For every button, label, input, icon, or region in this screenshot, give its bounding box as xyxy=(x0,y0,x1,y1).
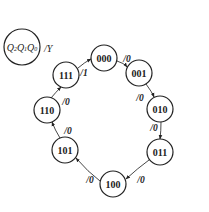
state-label: 101 xyxy=(58,145,73,156)
state-label: 111 xyxy=(59,70,73,81)
state-label: 000 xyxy=(97,53,112,64)
label-111-000: /1 xyxy=(79,68,87,78)
label-011-100: /0 xyxy=(136,175,145,185)
label-000-001: /0 xyxy=(122,54,131,64)
state-111: 111 xyxy=(53,62,79,88)
state-011: 011 xyxy=(147,139,173,165)
edge-110-111 xyxy=(51,87,61,98)
edge-010-011 xyxy=(160,122,161,139)
state-diagram: Q2Q1Q0 /Y /0 /0 /0 /0 /0 /0 /0 /1 000 00… xyxy=(0,0,209,212)
state-101: 101 xyxy=(52,137,78,163)
state-010: 010 xyxy=(147,96,173,122)
state-label: 011 xyxy=(153,147,167,158)
edge-001-010 xyxy=(146,84,154,97)
legend-output-label: /Y xyxy=(43,43,54,54)
state-110: 110 xyxy=(34,97,60,123)
edge-111-000 xyxy=(78,59,91,68)
state-000: 000 xyxy=(91,45,117,71)
label-010-011: /0 xyxy=(149,123,158,133)
state-100: 100 xyxy=(100,171,126,197)
state-label: 100 xyxy=(106,179,121,190)
state-001: 001 xyxy=(126,60,152,86)
edge-101-110 xyxy=(52,122,60,138)
label-110-111: /0 xyxy=(61,97,70,107)
state-label: 110 xyxy=(40,105,54,116)
state-label: 001 xyxy=(132,68,147,79)
legend: Q2Q1Q0 /Y xyxy=(4,29,54,65)
state-label: 010 xyxy=(153,104,168,115)
label-001-010: /0 xyxy=(135,93,144,103)
label-100-101: /0 xyxy=(85,175,94,185)
label-101-110: /0 xyxy=(63,126,72,136)
legend-state-vars: Q2Q1Q0 xyxy=(7,42,38,53)
